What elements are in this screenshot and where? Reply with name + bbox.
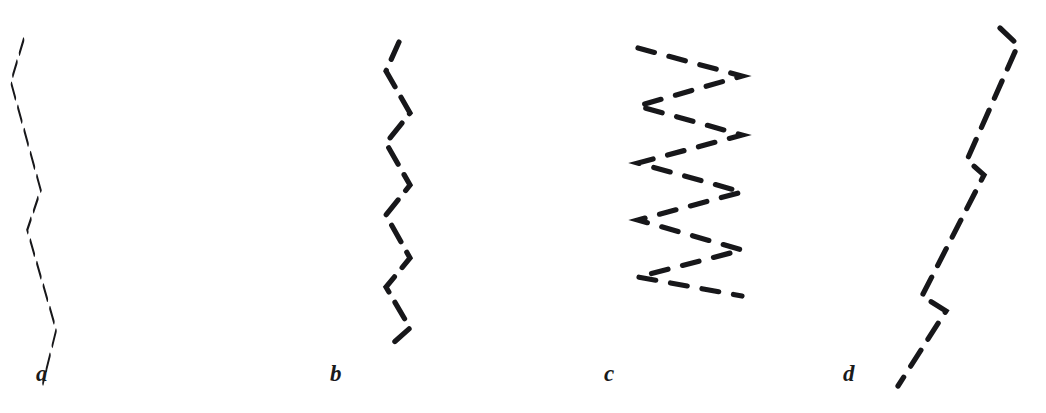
panel-d: d <box>0 0 1046 413</box>
zigzag-d-polyline <box>898 28 1018 386</box>
panel-d-label: d <box>843 362 855 385</box>
figure-root: a b c d <box>0 0 1046 413</box>
zigzag-d-svg <box>0 0 1046 413</box>
